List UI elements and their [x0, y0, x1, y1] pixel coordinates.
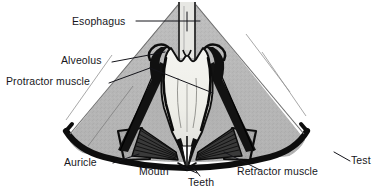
- leader-test: [334, 152, 350, 161]
- label-mouth: Mouth: [139, 166, 169, 177]
- label-teeth: Teeth: [188, 177, 214, 188]
- anatomy-diagram: [0, 0, 374, 191]
- label-auricle: Auricle: [64, 157, 97, 168]
- label-test: Test: [351, 155, 371, 166]
- label-protractor-muscle: Protractor muscle: [6, 76, 90, 87]
- label-retractor-muscle: Retractor muscle: [237, 166, 318, 177]
- label-alveolus: Alveolus: [61, 55, 102, 66]
- label-esophagus: Esophagus: [72, 16, 125, 27]
- figure-canvas: Esophagus Alveolus Protractor muscle Aur…: [0, 0, 374, 191]
